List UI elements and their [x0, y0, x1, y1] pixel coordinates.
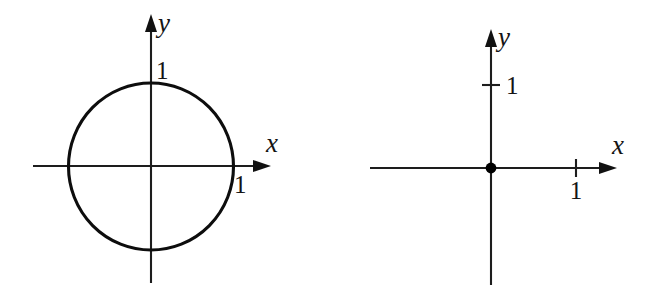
figure-canvas: 1 1 y x 1 — [0, 0, 652, 297]
origin-point-marker — [486, 163, 497, 174]
y-tick-label: 1 — [156, 57, 169, 84]
x-axis-label: x — [265, 128, 278, 158]
y-axis-label: y — [495, 22, 510, 52]
x-axis-arrow-icon — [253, 160, 271, 172]
panel-unit-circle: 1 1 y x — [0, 0, 326, 297]
x-axis-arrow-icon — [599, 162, 617, 174]
panel-origin-point: 1 1 y x — [326, 0, 652, 297]
x-tick-label: 1 — [570, 177, 583, 204]
x-axis-label: x — [611, 130, 624, 160]
x-tick-label: 1 — [234, 171, 247, 198]
y-axis-arrow-icon — [485, 29, 497, 47]
y-tick-label: 1 — [506, 72, 519, 99]
y-axis-arrow-icon — [145, 14, 157, 32]
y-axis-label: y — [155, 8, 170, 38]
